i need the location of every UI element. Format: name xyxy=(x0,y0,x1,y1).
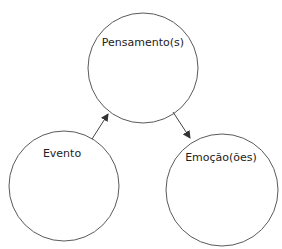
arrow-evento-to-pensamentos xyxy=(92,114,108,139)
emocoes-label: Emoção(ões) xyxy=(185,151,257,164)
node-pensamentos: Pensamento(s) xyxy=(88,13,198,123)
pensamentos-label: Pensamento(s) xyxy=(102,36,184,49)
thought-emotion-diagram: Pensamento(s) Evento Emoção(ões) xyxy=(0,0,282,249)
pensamentos-circle xyxy=(88,13,198,123)
evento-label: Evento xyxy=(43,147,82,160)
node-evento: Evento xyxy=(9,131,119,241)
arrow-pensamentos-to-emocoes xyxy=(173,112,190,138)
node-emocoes: Emoção(ões) xyxy=(166,134,278,246)
